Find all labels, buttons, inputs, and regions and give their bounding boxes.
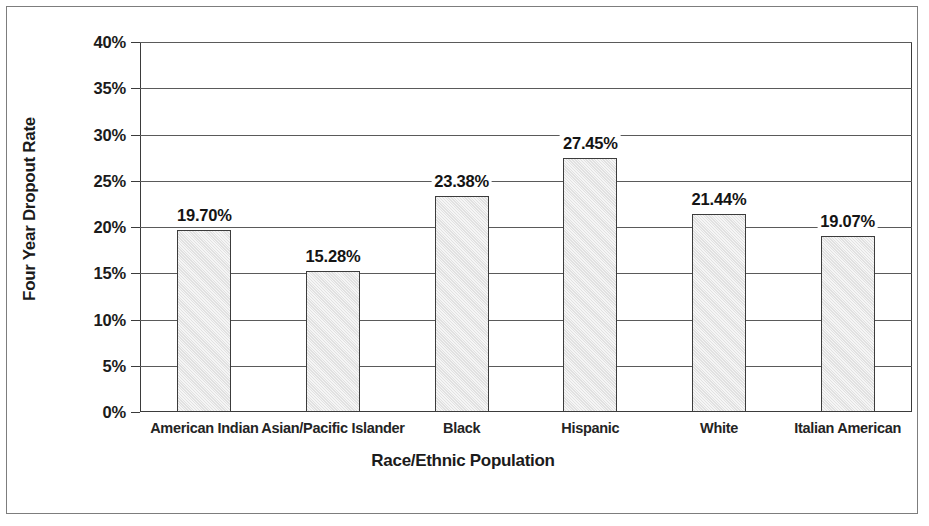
y-axis-tick-label: 15% [94, 264, 126, 283]
bar-value-label: 19.07% [817, 212, 878, 231]
bar-slot: 27.45%Hispanic [526, 42, 655, 412]
bar-slot: 19.07%Italian American [783, 42, 912, 412]
bar-value-label: 19.70% [174, 206, 235, 225]
bar[interactable] [177, 230, 231, 412]
x-axis-category-label: Asian/Pacific Islander [261, 420, 404, 436]
x-axis-category-label: Black [443, 420, 480, 436]
y-axis-tick [131, 412, 140, 413]
plot-area: 0%5%10%15%20%25%30%35%40% 19.70%American… [140, 42, 912, 412]
bar-slot: 23.38%Black [397, 42, 526, 412]
bar-value-label: 15.28% [303, 247, 364, 266]
bar-slot: 15.28%Asian/Pacific Islander [269, 42, 398, 412]
y-axis-tick-label: 0% [103, 403, 126, 422]
y-axis-tick [131, 227, 140, 228]
x-axis-category-label: White [700, 420, 738, 436]
y-axis-tick-label: 25% [94, 171, 126, 190]
y-axis-tick-label: 40% [94, 33, 126, 52]
y-axis-title: Four Year Dropout Rate [17, 94, 43, 324]
y-axis-tick-label: 20% [94, 218, 126, 237]
y-axis-tick [131, 42, 140, 43]
y-axis-tick-label: 10% [94, 310, 126, 329]
bar-value-label: 23.38% [431, 172, 492, 191]
x-axis-title: Race/Ethnic Population [7, 451, 919, 471]
bar[interactable] [821, 236, 875, 412]
bar[interactable] [435, 196, 489, 412]
chart-figure: Four Year Dropout Rate 0%5%10%15%20%25%3… [6, 6, 918, 514]
y-axis-tick [131, 135, 140, 136]
bar-slot: 21.44%White [655, 42, 784, 412]
x-axis-category-label: Italian American [794, 420, 901, 436]
y-axis-tick [131, 320, 140, 321]
x-axis-category-label: American Indian [150, 420, 258, 436]
bar-slot: 19.70%American Indian [140, 42, 269, 412]
y-axis-tick [131, 273, 140, 274]
y-axis-tick-label: 30% [94, 125, 126, 144]
bar[interactable] [692, 214, 746, 412]
y-axis-tick-label: 35% [94, 79, 126, 98]
y-axis-tick [131, 181, 140, 182]
y-axis-tick-label: 5% [103, 356, 126, 375]
bar-value-label: 21.44% [689, 190, 750, 209]
bar[interactable] [306, 271, 360, 412]
bar-value-label: 27.45% [560, 134, 621, 153]
y-axis-tick [131, 366, 140, 367]
bar[interactable] [563, 158, 617, 412]
x-axis-category-label: Hispanic [561, 420, 619, 436]
y-axis-tick [131, 88, 140, 89]
